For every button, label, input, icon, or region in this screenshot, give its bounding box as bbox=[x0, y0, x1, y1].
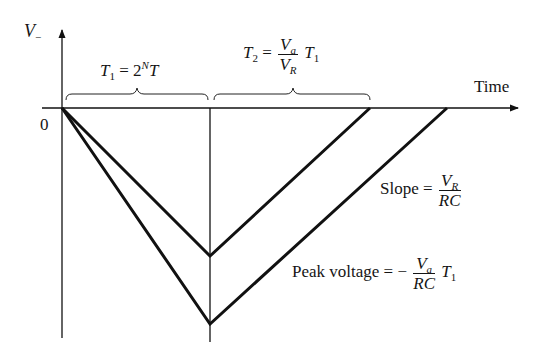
slope-label: Slope = VR RC bbox=[380, 172, 463, 209]
t2-label: T2 = Va VR T1 bbox=[243, 36, 319, 73]
t2-brace bbox=[214, 88, 370, 100]
t2-fraction: Va VR bbox=[278, 36, 298, 73]
origin-label: 0 bbox=[40, 116, 49, 133]
t1-brace bbox=[66, 88, 208, 100]
slope-fraction: VR RC bbox=[439, 172, 461, 209]
t1-label: T1 = 2NT bbox=[100, 62, 158, 79]
peak-fraction: Va RC bbox=[413, 255, 435, 292]
y-axis-label: V− bbox=[24, 22, 41, 40]
upper-ramp-curve bbox=[62, 108, 370, 256]
peak-voltage-label: Peak voltage = − Va RC T1 bbox=[292, 255, 456, 292]
time-axis-label: Time bbox=[474, 78, 509, 95]
